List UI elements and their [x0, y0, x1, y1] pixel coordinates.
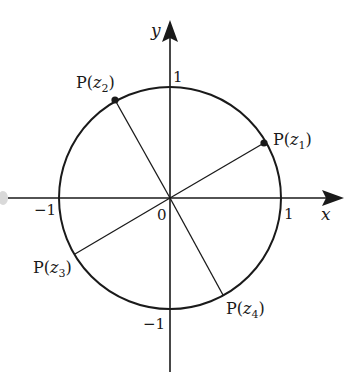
point-z4-label: P(z4): [226, 299, 265, 321]
tick-y-neg: −1: [143, 315, 165, 333]
point-z2-dot: [111, 96, 118, 103]
point-z2-label: P(z2): [76, 73, 115, 95]
y-axis-label: y: [150, 20, 161, 40]
x-axis-label: x: [321, 204, 331, 224]
radius-z2: [115, 100, 170, 198]
radius-z1: [170, 143, 264, 198]
origin-label: 0: [157, 206, 167, 224]
point-z3-label: P(z3): [33, 258, 72, 280]
tick-x-pos: 1: [284, 205, 294, 223]
point-z1-dot: [260, 139, 267, 146]
radius-z4: [170, 198, 223, 295]
radius-z3: [75, 198, 170, 254]
tick-y-pos: 1: [173, 68, 183, 86]
unit-circle-diagram: x y 1 −1 1 −1 0 P(z1) P(z2) P(z3) P(z4): [0, 0, 357, 389]
scan-artifact: [0, 191, 8, 205]
tick-x-neg: −1: [34, 201, 56, 219]
point-z1-label: P(z1): [273, 130, 312, 152]
